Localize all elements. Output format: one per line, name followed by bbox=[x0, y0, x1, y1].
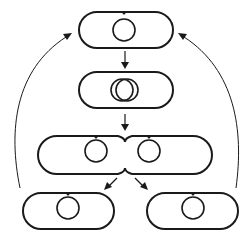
daughter-cell-left bbox=[23, 193, 114, 230]
cell-membrane bbox=[23, 193, 114, 229]
binary-fission-diagram bbox=[0, 0, 250, 240]
attachment-point bbox=[192, 193, 195, 196]
attachment-point bbox=[148, 136, 151, 139]
chromosome-icon bbox=[182, 197, 204, 219]
arrow-dividing-to-right-daughter bbox=[135, 178, 148, 190]
arrow-parent-to-replicating bbox=[121, 51, 129, 69]
cell-membrane bbox=[79, 12, 173, 48]
dividing-cell bbox=[38, 136, 212, 175]
cycle-arrow-left bbox=[15, 33, 72, 188]
replicating-cell bbox=[79, 72, 173, 108]
chromosome-icon bbox=[113, 19, 135, 41]
arrow-dividing-to-left-daughter bbox=[104, 178, 117, 190]
cell-membrane bbox=[79, 72, 173, 108]
daughter-cell-right bbox=[147, 193, 238, 230]
replicated-chromosome-icon bbox=[116, 79, 138, 101]
chromosome-icon bbox=[138, 140, 160, 162]
attachment-point bbox=[123, 12, 126, 15]
chromosome-icon bbox=[111, 79, 133, 101]
constricted-membrane bbox=[38, 136, 212, 174]
chromosome-icon bbox=[57, 197, 79, 219]
arrow-replicating-to-dividing bbox=[121, 114, 129, 131]
attachment-point bbox=[67, 193, 70, 196]
attachment-point bbox=[95, 136, 98, 139]
chromosome-icon bbox=[85, 140, 107, 162]
parent-cell bbox=[79, 12, 173, 49]
cell-membrane bbox=[147, 193, 238, 229]
